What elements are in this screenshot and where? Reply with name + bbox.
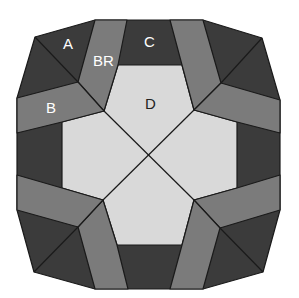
diagram: A BR B C D	[0, 0, 299, 298]
label-br: BR	[93, 52, 114, 69]
label-b: B	[46, 99, 56, 116]
label-d: D	[145, 95, 156, 112]
label-a: A	[63, 35, 73, 52]
label-c: C	[144, 33, 155, 50]
octagon-tiling-figure: A BR B C D	[0, 0, 299, 298]
